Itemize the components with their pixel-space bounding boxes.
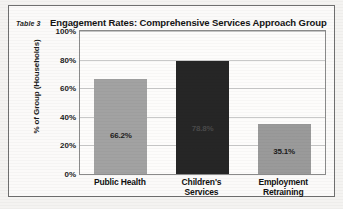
x-axis-label: EmploymentRetraining	[242, 177, 324, 197]
bar-value-label: 78.8%	[176, 124, 229, 133]
x-axis-label-line: Public Health	[79, 177, 161, 187]
figure-frame: Table 3 Engagement Rates: Comprehensive …	[8, 5, 335, 197]
x-axis-label-line: Employment	[242, 177, 324, 187]
bar-slot: 66.2%	[94, 31, 147, 174]
x-axis-label: Children'sServices	[161, 177, 243, 197]
bar-slot: 35.1%	[258, 31, 311, 174]
y-tick-label: 40%	[60, 112, 76, 121]
x-axis-labels: Public HealthChildren'sServicesEmploymen…	[79, 177, 326, 201]
y-tick-label: 80%	[60, 55, 76, 64]
y-tick-label: 60%	[60, 84, 76, 93]
bar[interactable]	[176, 61, 229, 174]
x-axis-label: Public Health	[79, 177, 161, 187]
y-tick-label: 20%	[60, 141, 76, 150]
y-tick-label: 0%	[64, 170, 76, 179]
plot-area: 100%80%60%40%20%0% 66.2%78.8%35.1%	[79, 30, 326, 175]
bar-slot: 78.8%	[176, 31, 229, 174]
chart-title: Engagement Rates: Comprehensive Services…	[50, 17, 327, 28]
bar[interactable]	[94, 79, 147, 174]
table-number-label: Table 3	[16, 20, 41, 27]
x-axis-label-line: Children's	[161, 177, 243, 187]
y-tick-label: 100%	[56, 27, 76, 36]
figure-title-row: Table 3 Engagement Rates: Comprehensive …	[16, 12, 330, 26]
bar-value-label: 66.2%	[94, 131, 147, 140]
x-axis-label-line: Services	[161, 187, 243, 197]
bars-layer: 66.2%78.8%35.1%	[80, 31, 325, 174]
x-axis-label-line: Retraining	[242, 187, 324, 197]
gridline: 0%	[80, 174, 325, 175]
bar-value-label: 35.1%	[258, 147, 311, 156]
y-axis-title: % of Group (Households)	[32, 32, 41, 142]
